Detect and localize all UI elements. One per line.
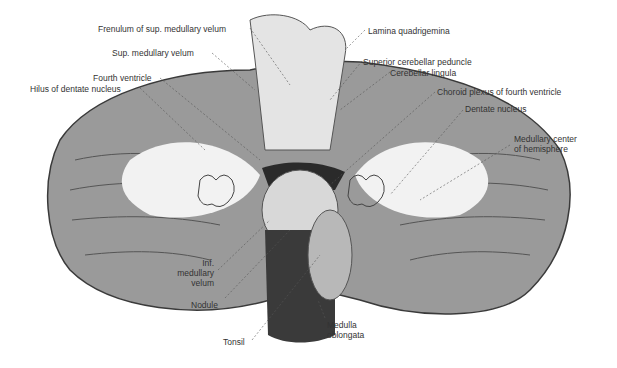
label-tonsil: Tonsil [223,337,245,347]
label-nodule: Nodule [191,300,218,310]
label-choroid-plexus: Choroid plexus of fourth ventricle [437,87,561,97]
label-superior-cerebellar-peduncle: Superior cerebellar peduncle [363,57,472,67]
cerebellum-diagram: Frenulum of sup. medullary velum Sup. me… [0,0,617,368]
label-medullary-center-line1: Medullary center [514,134,577,144]
cerebellum-illustration [0,0,617,368]
label-inf-velum-line1: Inf. [168,258,214,268]
label-fourth-ventricle: Fourth ventricle [93,73,152,83]
label-inf-velum-line3: velum [168,278,214,288]
label-dentate-nucleus: Dentate nucleus [465,104,526,114]
label-medullary-center: Medullary center of hemisphere [514,134,577,154]
label-lamina-quadrigemina: Lamina quadrigemina [368,26,450,36]
label-medulla-oblongata: Medulla oblongata [327,320,364,340]
label-hilus-dentate: Hilus of dentate nucleus [30,84,121,94]
label-medulla-line1: Medulla [327,320,364,330]
label-sup-medullary-velum: Sup. medullary velum [112,48,194,58]
label-medulla-line2: oblongata [327,330,364,340]
label-cerebellar-lingula: Cerebellar lingula [390,68,456,78]
label-frenulum: Frenulum of sup. medullary velum [98,24,226,34]
label-inf-medullary-velum: Inf. medullary velum [168,258,214,288]
label-medullary-center-line2: of hemisphere [514,144,577,154]
label-inf-velum-line2: medullary [168,268,214,278]
